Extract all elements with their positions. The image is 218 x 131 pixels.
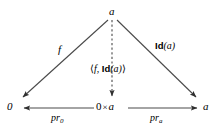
product-right-operand: a	[109, 100, 115, 112]
edge-label-pair: ⟨f, Id(a)⟩	[90, 64, 126, 74]
edge-label-pr0: pr0	[51, 113, 63, 125]
commutative-diagram: a 0 0×a a f ⟨f, Id(a)⟩ Id(a) pr0 pra	[0, 0, 218, 131]
pra-subscript: a	[159, 117, 163, 125]
product-times-icon: ×	[102, 102, 109, 112]
pair-id: Id	[102, 63, 110, 74]
node-bottom-right-a: a	[203, 101, 209, 112]
node-bottom-left-zero: 0	[7, 101, 13, 112]
edge-label-id: Id(a)	[155, 41, 175, 51]
node-apex: a	[109, 6, 115, 17]
pair-arg: (a)	[110, 63, 122, 74]
node-bottom-center-product: 0×a	[96, 101, 114, 112]
product-left-operand: 0	[96, 100, 102, 112]
edge-label-pra: pra	[150, 113, 162, 125]
pair-close-bracket: ⟩	[122, 63, 126, 74]
pra-base: pr	[150, 112, 159, 123]
id-argument: (a)	[163, 40, 175, 51]
edge-label-f: f	[58, 44, 61, 55]
pair-comma: ,	[97, 63, 100, 74]
pr0-base: pr	[51, 112, 60, 123]
pr0-subscript: 0	[60, 117, 64, 125]
edge-id	[117, 20, 196, 97]
edge-f	[23, 20, 108, 97]
